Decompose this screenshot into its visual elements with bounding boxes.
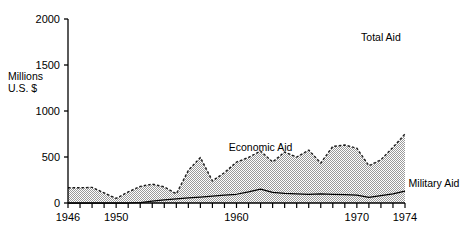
total-aid-label: Total Aid (361, 31, 401, 43)
y-tick-label: 2000 (36, 13, 60, 25)
y-tick-label: 500 (42, 151, 60, 163)
chart-container: 0500100015002000 19461950196019701974 Mi… (0, 0, 472, 237)
y-axis-title-line2: U.S. $ (8, 82, 37, 94)
x-tick-label: 1950 (104, 211, 128, 223)
y-axis-title-line1: Millions (8, 70, 43, 82)
x-axis-ticks (68, 203, 405, 208)
x-tick-label: 1970 (345, 211, 369, 223)
y-tick-label: 1000 (36, 105, 60, 117)
economic-aid-label: Economic Aid (229, 141, 293, 153)
x-axis-tick-labels: 19461950196019701974 (56, 211, 417, 223)
y-axis: 0500100015002000 (36, 13, 68, 209)
x-tick-label: 1960 (224, 211, 248, 223)
x-tick-label: 1974 (393, 211, 417, 223)
y-axis-tick-labels: 0500100015002000 (36, 13, 60, 209)
x-axis: 19461950196019701974 (56, 203, 417, 223)
y-tick-label: 0 (54, 197, 60, 209)
aid-area-chart: 0500100015002000 19461950196019701974 Mi… (0, 0, 472, 237)
military-aid-label: Military Aid (409, 177, 460, 189)
x-tick-label: 1946 (56, 211, 80, 223)
